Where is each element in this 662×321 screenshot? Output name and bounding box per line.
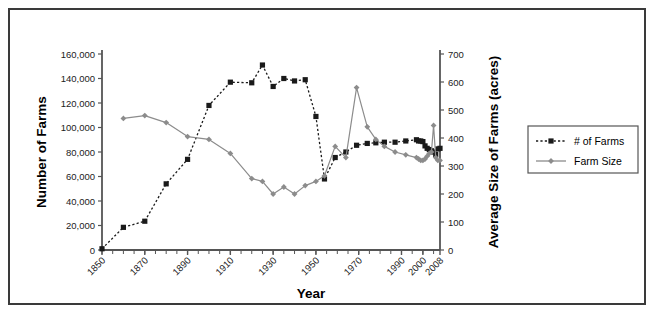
x-tick-label: 1950 bbox=[299, 255, 322, 278]
y-axis-title: Number of Farms bbox=[34, 96, 49, 208]
left-y-tick-label: 100,000 bbox=[61, 122, 95, 133]
chart-frame: 020,00040,00060,00080,000100,000120,0001… bbox=[8, 8, 646, 305]
left-y-tick-label: 20,000 bbox=[66, 220, 95, 231]
left-y-tick-label: 40,000 bbox=[66, 196, 95, 207]
data-point-marker bbox=[120, 116, 126, 122]
data-point-marker bbox=[354, 85, 360, 91]
left-y-tick-label: 80,000 bbox=[66, 147, 95, 158]
x-tick-label: 1890 bbox=[170, 255, 193, 278]
data-point-marker bbox=[142, 113, 148, 119]
x-axis-title: Year bbox=[297, 286, 326, 301]
x-tick-label: 2008 bbox=[423, 255, 446, 278]
left-y-tick-label: 120,000 bbox=[61, 98, 95, 109]
right-y-tick-label: 400 bbox=[448, 133, 464, 144]
data-point-marker bbox=[431, 123, 437, 129]
x-tick-label: 1870 bbox=[127, 255, 150, 278]
data-point-marker bbox=[392, 140, 397, 145]
right-y-tick-label: 700 bbox=[448, 49, 464, 60]
right-y-axis-title: Average Size of Farms (acres) bbox=[486, 56, 501, 248]
data-point-marker bbox=[313, 114, 318, 119]
data-point-marker bbox=[392, 149, 398, 155]
right-y-tick-label: 300 bbox=[448, 161, 464, 172]
data-point-marker bbox=[365, 141, 370, 146]
data-point-marker bbox=[437, 146, 442, 151]
data-point-marker bbox=[403, 138, 408, 143]
left-y-tick-label: 160,000 bbox=[61, 49, 95, 60]
right-y-tick-label: 200 bbox=[448, 189, 464, 200]
data-point-marker bbox=[403, 152, 409, 158]
series-line-1 bbox=[102, 65, 440, 249]
data-point-marker bbox=[271, 84, 276, 89]
data-point-marker bbox=[333, 155, 338, 160]
data-point-marker bbox=[99, 246, 104, 251]
left-y-tick-label: 60,000 bbox=[66, 171, 95, 182]
data-point-marker bbox=[354, 143, 359, 148]
data-point-marker bbox=[228, 80, 233, 85]
data-point-marker bbox=[292, 78, 297, 83]
x-tick-label: 1970 bbox=[341, 255, 364, 278]
left-y-tick-label: 140,000 bbox=[61, 73, 95, 84]
legend-label-1: # of Farms bbox=[574, 135, 624, 147]
x-tick-label: 1910 bbox=[213, 255, 236, 278]
data-point-marker bbox=[249, 80, 254, 85]
x-tick-label: 1930 bbox=[256, 255, 279, 278]
x-tick-label: 1990 bbox=[384, 255, 407, 278]
data-point-marker bbox=[185, 157, 190, 162]
data-point-marker bbox=[548, 138, 553, 143]
right-y-tick-label: 600 bbox=[448, 77, 464, 88]
legend-label-2: Farm Size bbox=[574, 155, 622, 167]
right-y-tick-label: 100 bbox=[448, 217, 464, 228]
right-y-tick-label: 0 bbox=[448, 245, 453, 256]
data-point-marker bbox=[206, 103, 211, 108]
data-point-marker bbox=[303, 77, 308, 82]
data-point-marker bbox=[281, 76, 286, 81]
data-point-marker bbox=[121, 225, 126, 230]
data-point-marker bbox=[164, 181, 169, 186]
right-y-tick-label: 500 bbox=[448, 105, 464, 116]
left-y-tick-label: 0 bbox=[90, 245, 95, 256]
x-tick-label: 1850 bbox=[85, 255, 108, 278]
farms-chart: 020,00040,00060,00080,000100,000120,0001… bbox=[10, 10, 648, 307]
data-point-marker bbox=[142, 219, 147, 224]
data-point-marker bbox=[260, 62, 265, 67]
